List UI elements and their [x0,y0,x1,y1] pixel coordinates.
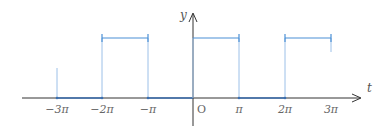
high-segments [102,34,331,42]
tick-label-mpi: −π [140,103,157,116]
y-axis-label: y [179,8,187,22]
x-axis-label: t [367,81,372,95]
origin-label: O [197,103,206,116]
square-wave-graph: t y O −3π −2π −π π 2π 3π [0,0,385,128]
tick-label-pi: π [234,103,243,116]
signal-verticals [57,38,331,98]
tick-label-m3pi: −3π [45,103,69,116]
tick-label-2pi: 2π [277,103,293,116]
tick-label-3pi: 3π [324,103,339,116]
tick-label-m2pi: −2π [90,103,114,116]
